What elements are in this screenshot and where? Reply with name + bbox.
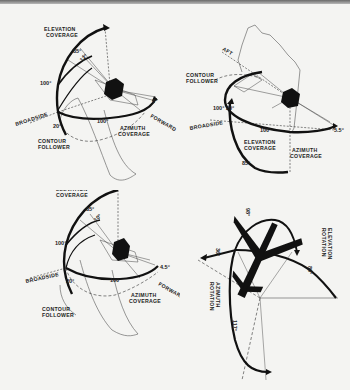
diagram-panel-bottom-left: ELEVATION COVERAGE 85° 10° 100° 100° 20°… xyxy=(0,190,180,390)
svg-text:ROTATION: ROTATION xyxy=(209,282,215,311)
svg-text:100°: 100° xyxy=(110,277,121,283)
svg-text:COVERAGE: COVERAGE xyxy=(290,153,322,159)
svg-text:ROTATION: ROTATION xyxy=(321,228,327,257)
svg-text:FOLLOWER: FOLLOWER xyxy=(186,78,218,84)
svg-text:5.5°: 5.5° xyxy=(334,127,344,133)
svg-text:COVERAGE: COVERAGE xyxy=(244,145,276,151)
svg-text:100°: 100° xyxy=(40,80,51,86)
svg-text:20°: 20° xyxy=(53,123,61,129)
label-broadside: BROADSIDE xyxy=(189,119,224,131)
svg-text:4.5°: 4.5° xyxy=(160,264,170,270)
svg-text:20°: 20° xyxy=(226,105,234,111)
label-broadside: BROADSIDE xyxy=(25,271,60,284)
angle-label: 85° xyxy=(73,48,81,54)
svg-text:85°: 85° xyxy=(86,206,94,212)
svg-text:117°: 117° xyxy=(232,320,238,331)
label-forward: FORWARD xyxy=(150,113,178,133)
svg-text:85°: 85° xyxy=(242,160,250,166)
svg-text:80°: 80° xyxy=(307,266,313,274)
svg-text:100°: 100° xyxy=(97,118,108,124)
svg-text:FOLLOWER: FOLLOWER xyxy=(42,312,74,318)
diagram-panel-top-right: AFT CONTOUR FOLLOWER 100° 20° BROADSIDE … xyxy=(180,0,358,195)
svg-text:COVERAGE: COVERAGE xyxy=(118,131,150,137)
svg-text:20°: 20° xyxy=(66,278,74,284)
svg-text:100°: 100° xyxy=(213,105,224,111)
svg-text:100°: 100° xyxy=(55,240,66,246)
diagram-panel-top-left: ELEVATION COVERAGE 85° 12° 100° 100° 20°… xyxy=(0,0,180,195)
diagram-panel-bottom-right: 98° 36° 80° 117° ELEVATION ROTATION AZIM… xyxy=(180,190,358,390)
svg-text:12°: 12° xyxy=(78,53,88,63)
svg-text:100°: 100° xyxy=(260,127,271,133)
label-aft: AFT xyxy=(222,46,235,57)
svg-text:COVERAGE: COVERAGE xyxy=(129,298,161,304)
svg-text:36°: 36° xyxy=(215,248,221,256)
svg-text:10°: 10° xyxy=(92,213,102,223)
svg-text:6°: 6° xyxy=(152,98,157,104)
svg-text:98°: 98° xyxy=(245,208,251,216)
svg-text:FOLLOWER: FOLLOWER xyxy=(38,144,70,150)
label-broadside: BROADSIDE xyxy=(14,111,48,127)
svg-text:COVERAGE: COVERAGE xyxy=(56,192,88,198)
svg-text:COVERAGE: COVERAGE xyxy=(46,32,78,38)
